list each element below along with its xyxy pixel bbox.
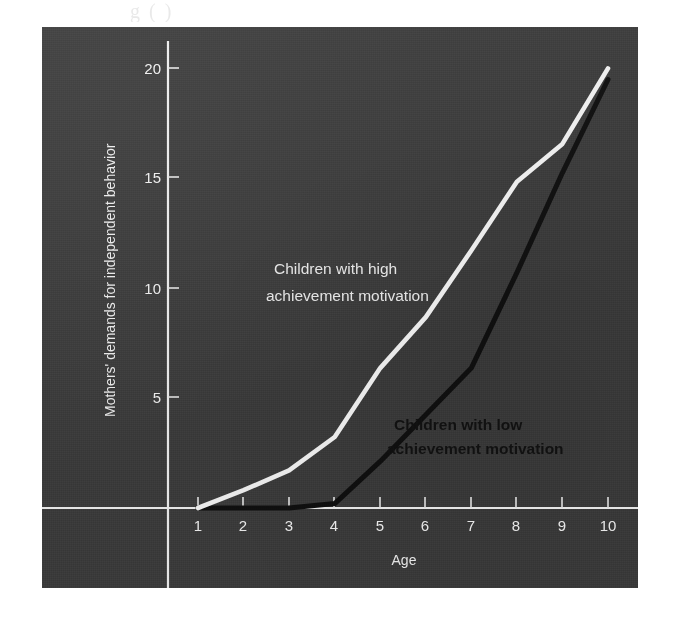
x-tick-label-2: 2 — [239, 517, 247, 534]
x-tick-label-4: 4 — [330, 517, 338, 534]
y-tick-label-5: 5 — [153, 389, 161, 406]
y-tick-label-10: 10 — [144, 280, 161, 297]
scan-artifact-text: g ( ) — [0, 0, 675, 22]
y-tick-label-15: 15 — [144, 169, 161, 186]
series-label-high-line2: achievement motivation — [266, 287, 429, 304]
y-tick-label-20: 20 — [144, 60, 161, 77]
chart-plot: 20 15 10 5 Mothers' demands for independ… — [42, 27, 638, 588]
x-tick-label-1: 1 — [194, 517, 202, 534]
x-tick-label-9: 9 — [558, 517, 566, 534]
x-tick-label-7: 7 — [467, 517, 475, 534]
series-label-low-line1: Children with low — [394, 416, 523, 433]
chart-panel: 20 15 10 5 Mothers' demands for independ… — [42, 27, 638, 588]
series-label-high-line1: Children with high — [274, 260, 397, 277]
x-tick-label-5: 5 — [376, 517, 384, 534]
x-axis-title: Age — [392, 552, 417, 568]
x-tick-label-3: 3 — [285, 517, 293, 534]
x-tick-label-8: 8 — [512, 517, 520, 534]
x-tick-label-6: 6 — [421, 517, 429, 534]
series-label-low-line2: achievement motivation — [387, 440, 564, 457]
x-tick-label-10: 10 — [600, 517, 617, 534]
y-axis-title: Mothers' demands for independent behavio… — [102, 143, 118, 417]
